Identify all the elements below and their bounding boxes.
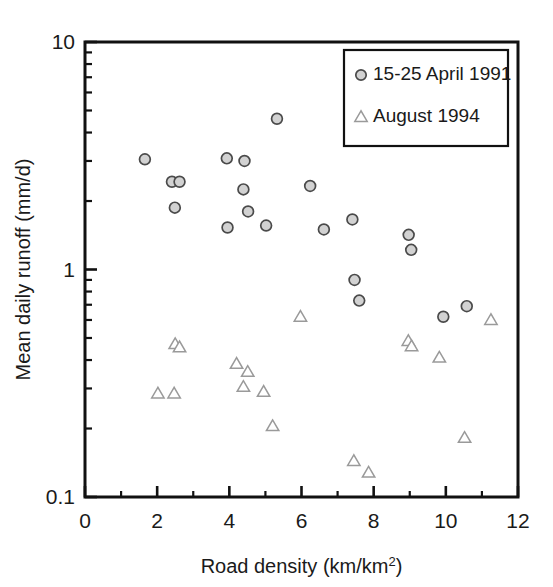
data-point-triangle xyxy=(237,381,249,392)
y-tick-label: 0.1 xyxy=(46,485,75,508)
data-point-circle xyxy=(239,156,250,167)
data-point-triangle xyxy=(294,311,306,322)
x-tick-label: 2 xyxy=(151,509,163,532)
x-axis-title: Road density (km/km2) xyxy=(201,554,403,577)
data-point-circle xyxy=(222,222,233,233)
data-point-circle xyxy=(347,214,358,225)
data-point-triangle xyxy=(362,466,374,477)
x-tick-label: 10 xyxy=(434,509,457,532)
chart-canvas: 0246810120.1110 15-25 April 1991August 1… xyxy=(0,0,553,587)
legend-label: August 1994 xyxy=(373,105,480,126)
data-point-circle xyxy=(305,181,316,192)
data-point-triangle xyxy=(348,455,360,466)
x-tick-label: 0 xyxy=(79,509,91,532)
x-tick-label: 4 xyxy=(223,509,235,532)
legend-label: 15-25 April 1991 xyxy=(373,63,511,84)
data-point-circle xyxy=(318,224,329,235)
data-point-circle xyxy=(438,311,449,322)
data-point-circle xyxy=(461,301,472,312)
data-point-circle xyxy=(406,244,417,255)
y-tick-label: 10 xyxy=(52,30,75,53)
data-point-circle xyxy=(354,295,365,306)
scatter-plot-figure: 0246810120.1110 15-25 April 1991August 1… xyxy=(0,0,553,587)
data-point-triangle xyxy=(242,366,254,377)
data-point-circle xyxy=(243,206,254,217)
data-point-triangle xyxy=(230,358,242,369)
data-point-circle xyxy=(169,202,180,213)
x-tick-label: 12 xyxy=(506,509,529,532)
y-tick-label: 1 xyxy=(63,258,75,281)
axis-titles: Road density (km/km2)Mean daily runoff (… xyxy=(12,159,402,577)
data-point-triangle xyxy=(168,387,180,398)
data-point-circle xyxy=(261,220,272,231)
chart-legend: 15-25 April 1991August 1994 xyxy=(344,50,511,146)
legend-marker-circle xyxy=(356,70,366,80)
data-point-circle xyxy=(174,176,185,187)
data-point-circle xyxy=(221,153,232,164)
x-tick-label: 6 xyxy=(296,509,308,532)
data-point-triangle xyxy=(485,314,497,325)
data-point-circle xyxy=(403,229,414,240)
data-point-circle xyxy=(272,113,283,124)
y-axis-title: Mean daily runoff (mm/d) xyxy=(12,159,34,381)
data-point-triangle xyxy=(458,432,470,443)
data-points xyxy=(139,113,497,477)
data-point-triangle xyxy=(433,351,445,362)
data-point-circle xyxy=(238,184,249,195)
data-point-circle xyxy=(139,154,150,165)
data-point-triangle xyxy=(266,420,278,431)
x-tick-label: 8 xyxy=(368,509,380,532)
data-point-circle xyxy=(349,275,360,286)
data-point-triangle xyxy=(257,386,269,397)
data-point-triangle xyxy=(152,387,164,398)
